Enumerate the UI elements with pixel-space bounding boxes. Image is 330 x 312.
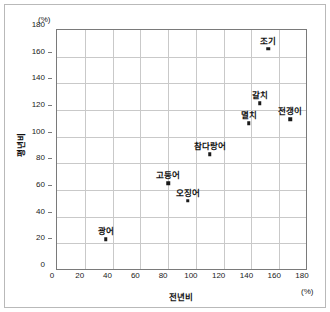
gridline-horizontal xyxy=(57,217,306,218)
y-tick-label: 80 xyxy=(13,153,45,162)
x-axis-title: 전년비 xyxy=(131,292,231,302)
y-tick-label: 160 xyxy=(13,47,45,56)
data-point xyxy=(258,102,262,106)
gridline-horizontal xyxy=(57,110,306,111)
y-tick-mark xyxy=(48,185,52,186)
gridline-horizontal xyxy=(57,57,306,58)
gridline-vertical xyxy=(140,30,141,269)
x-tick-label: 60 xyxy=(120,271,150,280)
data-point xyxy=(247,122,251,126)
gridline-vertical xyxy=(279,30,280,269)
gridline-vertical xyxy=(168,30,169,269)
y-tick-label: 40 xyxy=(13,207,45,216)
gridline-horizontal xyxy=(57,163,306,164)
data-point xyxy=(208,152,212,156)
gridline-horizontal xyxy=(57,243,306,244)
y-tick-mark xyxy=(48,238,52,239)
gridline-vertical xyxy=(85,30,86,269)
y-tick-mark xyxy=(48,158,52,159)
y-tick-mark xyxy=(48,52,52,53)
figure-frame: (%) (%) 평년비 전년비 020406080100120140160180… xyxy=(4,4,326,308)
data-point xyxy=(104,238,108,242)
plot-area: 광어고등어오징어참다랑어멸치갈치전갱이조기 xyxy=(56,29,307,270)
data-point-label: 조기 xyxy=(260,36,276,46)
y-tick-mark xyxy=(48,132,52,133)
y-tick-label: 20 xyxy=(13,233,45,242)
gridline-horizontal xyxy=(57,83,306,84)
x-tick-label: 0 xyxy=(37,271,67,280)
x-axis-unit: (%) xyxy=(301,287,313,296)
gridline-horizontal xyxy=(57,137,306,138)
gridline-vertical xyxy=(251,30,252,269)
data-point-label: 오징어 xyxy=(176,188,200,198)
data-point xyxy=(289,118,293,122)
data-point-label: 광어 xyxy=(98,226,114,236)
y-tick-label: 180 xyxy=(13,20,45,29)
x-tick-label: 140 xyxy=(231,271,261,280)
x-tick-label: 180 xyxy=(287,271,317,280)
x-tick-label: 120 xyxy=(204,271,234,280)
x-tick-label: 80 xyxy=(148,271,178,280)
data-point xyxy=(166,182,170,186)
x-tick-label: 100 xyxy=(176,271,206,280)
y-tick-label: 100 xyxy=(13,127,45,136)
data-point-label: 참다랑어 xyxy=(194,141,226,151)
y-tick-mark xyxy=(48,105,52,106)
data-point-label: 전갱이 xyxy=(278,106,302,116)
x-tick-label: 160 xyxy=(259,271,289,280)
y-tick-label: 140 xyxy=(13,73,45,82)
y-tick-label: 0 xyxy=(13,260,45,269)
y-tick-mark xyxy=(48,78,52,79)
y-tick-label: 60 xyxy=(13,180,45,189)
chart-page: (%) (%) 평년비 전년비 020406080100120140160180… xyxy=(0,0,330,312)
x-tick-label: 20 xyxy=(65,271,95,280)
y-tick-mark xyxy=(48,212,52,213)
y-tick-label: 120 xyxy=(13,100,45,109)
data-point-label: 멸치 xyxy=(241,110,257,120)
data-point xyxy=(266,47,270,51)
x-tick-label: 40 xyxy=(93,271,123,280)
data-point-label: 갈치 xyxy=(252,90,268,100)
data-point xyxy=(186,199,190,203)
data-point-label: 고등어 xyxy=(156,170,180,180)
